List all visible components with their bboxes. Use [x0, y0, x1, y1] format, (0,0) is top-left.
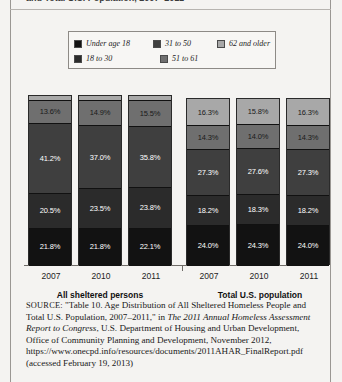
segment-value: 16.3%	[298, 108, 318, 117]
segment-value: 15.5%	[140, 109, 160, 118]
group-divider-tick	[182, 266, 183, 271]
segment-31-to-50[interactable]: 37.0%	[79, 126, 121, 189]
segment-value: 23.5%	[90, 204, 110, 213]
segment-value: 24.0%	[198, 241, 218, 250]
legend-swatch-icon	[74, 55, 82, 63]
segment-value: 14.0%	[248, 132, 268, 141]
segment-31-to-50[interactable]: 41.2%	[29, 124, 71, 194]
chart-legend: Under age 18 31 to 50 62 and older 18 to…	[68, 31, 276, 69]
legend-label: 31 to 50	[165, 39, 191, 48]
legend-label: Under age 18	[86, 39, 130, 48]
bar-uspop-2010[interactable]: 15.8% 14.0% 27.6% 18.3% 24.3% 2010	[236, 98, 280, 265]
segment-value: 14.3%	[198, 133, 218, 142]
segment-under-age-18[interactable]: 24.0%	[187, 226, 229, 266]
segment-18-to-30[interactable]: 23.8%	[129, 188, 171, 228]
legend-item-62-and-older: 62 and older	[217, 39, 270, 48]
segment-51-to-61[interactable]: 14.0%	[237, 125, 279, 148]
segment-62-and-older[interactable]: 15.8%	[237, 99, 279, 125]
segment-value: 14.9%	[90, 108, 110, 117]
segment-under-age-18[interactable]: 24.3%	[237, 225, 279, 266]
bar-sheltered-2010[interactable]: 2.8% 14.9% 37.0% 23.5% 21.8% 2010	[78, 95, 122, 265]
x-tick-label: 2007	[29, 271, 73, 281]
segment-value: 14.3%	[298, 133, 318, 142]
segment-51-to-61[interactable]: 13.6%	[29, 101, 71, 124]
segment-under-age-18[interactable]: 24.0%	[287, 226, 329, 266]
segment-value: 18.2%	[198, 206, 218, 215]
bar-sheltered-2007[interactable]: 2.9% 13.6% 41.2% 20.5% 21.8% 2007	[28, 95, 72, 265]
segment-value: 37.0%	[90, 153, 110, 162]
segment-value: 18.2%	[298, 206, 318, 215]
figure-page: and Total U.S. Population, 2007–2011 Und…	[0, 0, 342, 382]
legend-swatch-icon	[217, 40, 225, 48]
segment-62-and-older[interactable]: 16.3%	[187, 99, 229, 126]
legend-label: 18 to 30	[86, 54, 112, 63]
segment-value: 16.3%	[198, 108, 218, 117]
segment-value: 22.1%	[140, 242, 160, 251]
segment-under-age-18[interactable]: 21.8%	[79, 229, 121, 266]
segment-51-to-61[interactable]: 15.5%	[129, 101, 171, 127]
x-tick-label: 2011	[129, 271, 173, 281]
segment-31-to-50[interactable]: 27.6%	[237, 149, 279, 195]
group-label-total-us-population: Total U.S. population	[180, 290, 340, 300]
x-tick-label: 2007	[187, 271, 231, 281]
segment-value: 24.3%	[248, 241, 268, 250]
legend-item-under-age-18: Under age 18	[74, 39, 153, 48]
bar-uspop-2007[interactable]: 16.3% 14.3% 27.3% 18.2% 24.0% 2007	[186, 98, 230, 265]
segment-51-to-61[interactable]: 14.3%	[287, 126, 329, 150]
x-tick-label: 2010	[79, 271, 123, 281]
segment-value: 35.8%	[140, 153, 160, 162]
legend-label: 51 to 61	[172, 54, 198, 63]
segment-value: 15.8%	[248, 107, 268, 116]
legend-swatch-icon	[160, 55, 168, 63]
legend-swatch-icon	[74, 40, 82, 48]
segment-31-to-50[interactable]: 27.3%	[187, 150, 229, 196]
clipped-figure-title: and Total U.S. Population, 2007–2011	[26, 0, 286, 5]
segment-18-to-30[interactable]: 23.5%	[79, 189, 121, 229]
segment-51-to-61[interactable]: 14.9%	[79, 101, 121, 126]
source-label: SOURCE:	[26, 301, 63, 310]
segment-18-to-30[interactable]: 18.3%	[237, 195, 279, 226]
segment-value: 20.5%	[40, 206, 60, 215]
segment-value: 23.8%	[140, 203, 160, 212]
segment-under-age-18[interactable]: 21.8%	[29, 229, 71, 266]
segment-31-to-50[interactable]: 35.8%	[129, 127, 171, 188]
segment-value: 13.6%	[40, 107, 60, 116]
source-note: SOURCE: "Table 10. Age Distribution of A…	[26, 300, 316, 370]
segment-51-to-61[interactable]: 14.3%	[187, 126, 229, 150]
segment-value: 27.3%	[298, 168, 318, 177]
segment-31-to-50[interactable]: 27.3%	[287, 150, 329, 196]
group-label-all-sheltered-persons: All sheltered persons	[20, 290, 180, 300]
legend-item-51-to-61: 51 to 61	[160, 54, 230, 63]
chart-plot-area: 2.9% 13.6% 41.2% 20.5% 21.8% 2007	[10, 85, 331, 267]
page-rule-top	[10, 9, 331, 10]
legend-item-18-to-30: 18 to 30	[74, 54, 160, 63]
segment-value: 21.8%	[90, 242, 110, 251]
bar-sheltered-2011[interactable]: 2.9% 15.5% 35.8% 23.8% 22.1% 2011	[128, 95, 172, 265]
segment-value: 21.8%	[40, 242, 60, 251]
x-tick-label: 2011	[287, 271, 331, 281]
legend-swatch-icon	[153, 40, 161, 48]
segment-under-age-18[interactable]: 22.1%	[129, 229, 171, 267]
segment-value: 27.3%	[198, 168, 218, 177]
segment-value: 24.0%	[298, 241, 318, 250]
legend-item-31-to-50: 31 to 50	[153, 39, 217, 48]
segment-value: 41.2%	[40, 154, 60, 163]
segment-value: 27.6%	[248, 167, 268, 176]
segment-18-to-30[interactable]: 18.2%	[287, 196, 329, 226]
bar-uspop-2011[interactable]: 16.3% 14.3% 27.3% 18.2% 24.0% 2011	[286, 98, 330, 265]
legend-row-1: Under age 18 31 to 50 62 and older	[74, 36, 270, 51]
segment-18-to-30[interactable]: 20.5%	[29, 194, 71, 229]
legend-row-2: 18 to 30 51 to 61	[74, 51, 270, 66]
segment-62-and-older[interactable]: 16.3%	[287, 99, 329, 126]
x-tick-label: 2010	[237, 271, 281, 281]
segment-18-to-30[interactable]: 18.2%	[187, 196, 229, 226]
segment-value: 18.3%	[248, 205, 268, 214]
legend-label: 62 and older	[229, 39, 270, 48]
